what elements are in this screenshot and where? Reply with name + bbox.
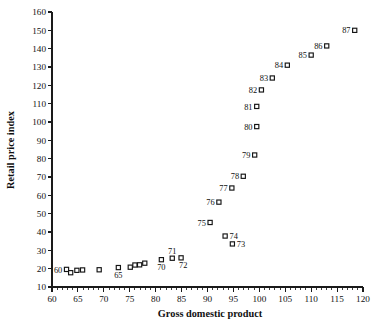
data-point-label: 81 — [244, 103, 252, 112]
data-point-marker — [259, 88, 263, 92]
data-point-label: 83 — [260, 74, 268, 83]
scatter-chart-figure: 1020304050607080901001101201301401501606… — [0, 0, 377, 323]
y-tick-label: 120 — [32, 81, 46, 91]
tick-label-group: 1020304050607080901001101201301401501606… — [32, 7, 370, 304]
data-point-marker — [69, 271, 73, 275]
data-point-label-group: 6065707172737475767778798081828384858687 — [54, 26, 351, 279]
plot-canvas: 1020304050607080901001101201301401501606… — [0, 0, 377, 323]
data-point-marker — [208, 220, 212, 224]
tick-group — [48, 12, 363, 292]
data-point-marker — [230, 186, 234, 190]
x-tick-label: 60 — [47, 294, 57, 304]
data-point-label: 77 — [219, 184, 227, 193]
y-tick-label: 20 — [37, 264, 47, 274]
data-point-marker — [253, 153, 257, 157]
y-tick-label: 160 — [32, 7, 46, 17]
data-point-label: 70 — [157, 263, 165, 272]
data-point-label: 76 — [206, 198, 214, 207]
data-point-marker — [75, 268, 79, 272]
data-point-marker — [241, 174, 245, 178]
y-tick-label: 50 — [37, 209, 47, 219]
data-point-label: 86 — [314, 42, 322, 51]
data-point-marker — [325, 44, 329, 48]
data-point-marker — [116, 265, 120, 269]
data-point-marker — [138, 263, 142, 267]
x-tick-label: 105 — [278, 294, 292, 304]
data-point-marker — [285, 63, 289, 67]
y-tick-label: 40 — [37, 227, 47, 237]
data-point-marker — [170, 256, 174, 260]
x-tick-label: 85 — [177, 294, 187, 304]
data-point-label: 79 — [242, 151, 250, 160]
data-point-marker — [217, 200, 221, 204]
x-tick-label: 100 — [252, 294, 266, 304]
x-tick-label: 115 — [330, 294, 344, 304]
x-tick-label: 75 — [125, 294, 135, 304]
data-point-label: 85 — [299, 51, 307, 60]
data-point-marker — [270, 76, 274, 80]
x-tick-label: 80 — [151, 294, 161, 304]
data-point-marker — [143, 261, 147, 265]
data-point-label: 60 — [54, 266, 62, 275]
data-point-label: 71 — [168, 247, 176, 256]
data-point-marker — [255, 124, 259, 128]
data-point-marker — [133, 263, 137, 267]
x-tick-label: 65 — [73, 294, 83, 304]
y-axis-title: Retail price index — [5, 110, 16, 189]
x-axis-title: Gross domestic product — [158, 308, 263, 319]
x-tick-label: 70 — [99, 294, 109, 304]
y-tick-label: 100 — [32, 117, 46, 127]
data-point-marker — [309, 53, 313, 57]
y-tick-label: 70 — [37, 172, 47, 182]
data-point-marker — [223, 234, 227, 238]
y-tick-label: 130 — [32, 62, 46, 72]
data-point-label: 84 — [275, 61, 284, 70]
data-point-label: 65 — [114, 271, 122, 280]
x-tick-label: 95 — [229, 294, 239, 304]
y-tick-label: 30 — [37, 246, 47, 256]
data-point-marker — [97, 268, 101, 272]
data-point-marker — [64, 267, 68, 271]
data-point-marker — [179, 256, 183, 260]
data-point-group — [64, 28, 356, 275]
data-point-label: 72 — [179, 261, 187, 270]
data-point-label: 78 — [231, 172, 239, 181]
x-tick-label: 90 — [203, 294, 213, 304]
y-tick-label: 140 — [32, 44, 46, 54]
data-point-label: 73 — [237, 240, 245, 249]
data-point-marker — [159, 258, 163, 262]
y-tick-label: 10 — [37, 282, 47, 292]
data-point-label: 75 — [198, 219, 206, 228]
data-point-marker — [353, 28, 357, 32]
data-point-label: 82 — [249, 86, 257, 95]
data-point-label: 87 — [342, 26, 350, 35]
x-tick-label: 120 — [356, 294, 370, 304]
data-point-label: 74 — [230, 232, 239, 241]
data-point-marker — [128, 265, 132, 269]
axes-group — [52, 12, 363, 287]
y-tick-label: 150 — [32, 26, 46, 36]
data-point-marker — [230, 242, 234, 246]
y-tick-label: 90 — [37, 136, 47, 146]
data-point-marker — [80, 268, 84, 272]
y-tick-label: 80 — [37, 154, 47, 164]
y-tick-label: 60 — [37, 191, 47, 201]
data-point-label: 80 — [244, 123, 252, 132]
x-tick-label: 110 — [304, 294, 318, 304]
data-point-marker — [255, 104, 259, 108]
y-tick-label: 110 — [33, 99, 47, 109]
